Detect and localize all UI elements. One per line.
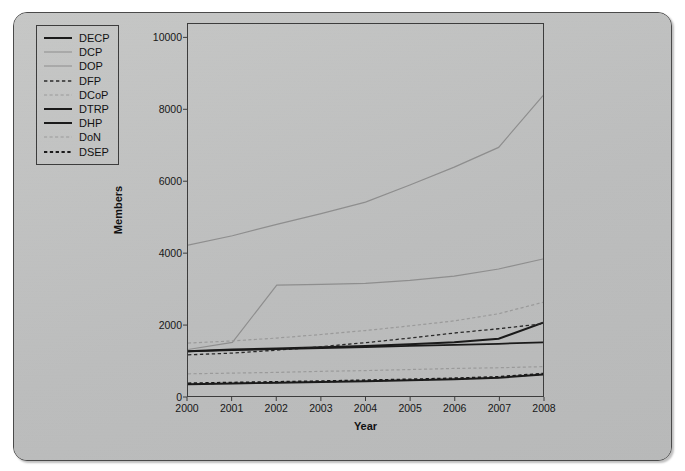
legend-label: DCoP [79,89,108,101]
legend-line-icon [43,60,73,72]
legend-line-icon [43,32,73,44]
legend-item-dhp: DHP [43,116,110,130]
legend-line-icon [43,117,73,129]
legend-label: DECP [79,32,110,44]
x-axis-tick-labels: 200020012002200320042005200620072008 [187,402,544,418]
legend-line-icon [43,75,73,87]
x-tick-label: 2000 [175,402,198,414]
legend-item-dsep: DSEP [43,145,110,159]
x-tick-label: 2007 [488,402,511,414]
x-tick-label: 2001 [220,402,243,414]
chart-figure: 0200040006000800010000 Members 200020012… [14,13,671,460]
legend-line-icon [43,103,73,115]
legend-line-icon [43,131,73,143]
x-tick-label: 2008 [532,402,555,414]
legend-label: DCP [79,46,102,58]
chart-legend: DECPDCPDOPDFPDCoPDTRPDHPDoNDSEP [36,25,119,165]
legend-label: DSEP [79,146,109,158]
legend-item-dfp: DFP [43,74,110,88]
x-tick-label: 2003 [309,402,332,414]
legend-item-don: DoN [43,130,110,144]
legend-item-dtrp: DTRP [43,102,110,116]
legend-item-dop: DOP [43,59,110,73]
x-tick-label: 2006 [443,402,466,414]
screenshot-page: 0200040006000800010000 Members 200020012… [0,0,685,471]
legend-line-icon [43,146,73,158]
legend-item-dcp: DCP [43,45,110,59]
legend-label: DFP [79,75,101,87]
x-tick-label: 2002 [265,402,288,414]
legend-item-decp: DECP [43,31,110,45]
x-tick-label: 2004 [354,402,377,414]
legend-line-icon [43,46,73,58]
x-tick-label: 2005 [398,402,421,414]
legend-label: DHP [79,117,102,129]
x-axis-title: Year [187,420,544,432]
legend-label: DTRP [79,103,109,115]
scanned-figure-card: 0200040006000800010000 Members 200020012… [13,12,672,461]
legend-label: DoN [79,131,101,143]
legend-label: DOP [79,60,103,72]
legend-item-dcop: DCoP [43,88,110,102]
legend-line-icon [43,89,73,101]
